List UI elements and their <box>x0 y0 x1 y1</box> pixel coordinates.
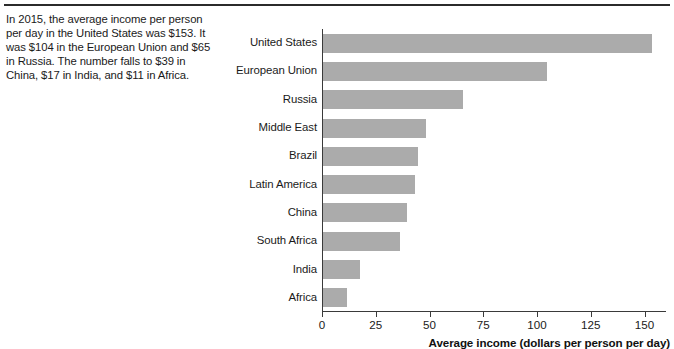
category-label: Brazil <box>226 149 317 161</box>
category-label: Russia <box>226 93 317 105</box>
bar <box>323 175 415 194</box>
bar <box>323 232 400 251</box>
bar-series <box>323 29 666 312</box>
bar <box>323 147 418 166</box>
category-label: Latin America <box>226 178 317 190</box>
x-tick-mark <box>537 311 538 317</box>
x-tick-mark <box>645 311 646 317</box>
x-tick-mark <box>322 311 323 317</box>
top-divider-rule <box>4 4 670 6</box>
x-tick-label: 150 <box>635 318 654 331</box>
bar <box>323 90 463 109</box>
category-axis-labels: United StatesEuropean UnionRussiaMiddle … <box>226 24 317 311</box>
x-axis-title: Average income (dollars per person per d… <box>226 336 670 349</box>
category-label: China <box>226 206 317 218</box>
x-tick-label: 50 <box>423 318 436 331</box>
bar <box>323 62 547 81</box>
x-tick-mark <box>376 311 377 317</box>
x-tick-label: 0 <box>319 318 325 331</box>
x-tick-label: 100 <box>527 318 546 331</box>
x-tick-label: 25 <box>369 318 382 331</box>
x-tick-label: 75 <box>477 318 490 331</box>
bar <box>323 203 407 222</box>
category-label: Middle East <box>226 121 317 133</box>
figure-caption: In 2015, the average income per person p… <box>6 12 218 82</box>
category-label: Africa <box>226 291 317 303</box>
bar <box>323 288 347 307</box>
category-label: South Africa <box>226 234 317 246</box>
bar <box>323 260 360 279</box>
x-tick-mark <box>483 311 484 317</box>
x-tick-mark <box>591 311 592 317</box>
category-label: European Union <box>226 64 317 76</box>
x-tick-label: 125 <box>581 318 600 331</box>
x-tick-mark <box>430 311 431 317</box>
bar <box>323 34 652 53</box>
category-label: India <box>226 263 317 275</box>
bar-chart: United StatesEuropean UnionRussiaMiddle … <box>226 24 670 324</box>
category-label: United States <box>226 36 317 48</box>
bar <box>323 119 426 138</box>
